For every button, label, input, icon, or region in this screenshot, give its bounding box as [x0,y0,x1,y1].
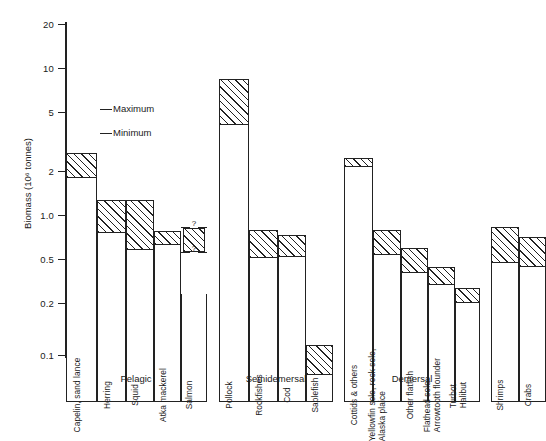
y-tickmark-02 [58,303,66,304]
bar-squid: Squid [126,201,154,402]
bar-label-yellowfin-line2: Alaska plaice [377,391,387,441]
bar-label-yellowfin-line1: Yellowfin sole, rock sole, [367,349,377,441]
bar-label-salmon: Salmon [184,381,194,410]
y-tick-label-01: 0.1 [40,350,54,361]
bar-label-herring: Herring [102,381,112,409]
y-tick-label-5: 5 [49,107,54,118]
y-tickmark-01 [58,355,66,356]
minimum-callout: Minimum [113,127,152,138]
y-axis-title: Biomass (10⁶ tonnes) [22,119,33,249]
maximum-leader-line [100,109,112,110]
bar-label-turbot-line2: Halibut [457,382,467,409]
maximum-callout: Maximum [113,103,154,114]
bar-label-squid: Squid [130,384,140,406]
bar-label-flathead-line1: Flathead sole [422,381,432,432]
y-tick-label-2: 2 [49,166,54,177]
y-tick-label-10: 10 [43,63,54,74]
bar-label-yellowfin-sole-group: Yellowfin sole, rock sole,Alaska plaice [368,349,387,441]
bar-turbot-halibut: TurbotHalibut [455,289,480,402]
bar-atka-mackerel: Atka mackerel [154,232,181,402]
y-tickmark-5 [58,112,66,113]
bar-crabs-max-range [519,237,546,267]
minimum-leader-line [100,133,112,134]
group-caption-pelagic: Pelagic [120,373,151,384]
bar-label-cod: Cod [282,387,292,403]
bar-yellowfin-max-range [373,230,402,255]
salmon-lower-question-mark: ? [192,244,196,253]
y-tickmark-10 [58,68,66,69]
bar-turbot-max-range [455,288,481,303]
bar-label-pollock: Pollock [224,381,234,408]
bar-herring-max-range [97,200,127,233]
y-tick-label-1: 1.0 [40,210,54,221]
bar-label-flathead-line2: Arrowtooth flounder [431,358,441,432]
salmon-lower-bracket-left [181,252,190,253]
y-tick-label-02: 0.2 [40,298,54,309]
bar-other-flatfish-max-range [401,248,429,273]
bar-atka-max-range [154,231,182,245]
bar-cottids-max-range [344,158,374,167]
group-caption-demersal: Demersal [392,373,433,384]
bar-sablefish-max-range [306,345,334,375]
y-tickmark-05 [58,259,66,260]
bar-crabs: Crabs [519,238,546,402]
bar-salmon: Salmon [181,294,207,402]
bar-pollock: Pollock [219,80,249,402]
group-caption-semidemersal: Semidemersal [246,373,307,384]
bar-label-crabs: Crabs [523,384,533,407]
y-tickmark-1 [58,215,66,216]
bar-label-shrimps: Shrimps [495,379,505,410]
bar-label-turbot-halibut: TurbotHalibut [449,382,468,409]
salmon-lower-bracket-right [198,252,207,253]
bar-label-flathead-arrowtooth: Flathead soleArrowtooth flounder [423,358,442,432]
bar-label-capelin: Capelin, sand lance [72,358,82,433]
bar-rockfishes-max-range [249,230,279,258]
salmon-upper-question-mark: ? [192,219,196,228]
y-tickmark-20 [58,24,66,25]
bar-cod-max-range [278,235,307,257]
bar-capelin-max-range [66,153,98,178]
salmon-upper-bracket-left [181,227,190,228]
y-tick-label-05: 0.5 [40,254,54,265]
bar-sablefish: Sablefish [306,346,333,402]
bar-flathead-max-range [428,267,456,285]
bar-herring: Herring [97,201,126,402]
bar-squid-max-range [126,200,155,250]
bar-shrimps-max-range [491,227,520,263]
bar-capelin-sand-lance: Capelin, sand lance [66,154,97,402]
bar-label-sablefish: Sablefish [310,377,320,412]
bar-shrimps: Shrimps [491,228,519,402]
bar-label-turbot-line1: Turbot [448,384,458,408]
salmon-upper-bracket-right [198,227,207,228]
y-tick-label-20: 20 [43,19,54,30]
bar-pollock-max-range [219,79,250,125]
bar-label-cottids-others: Cottids & others [349,365,359,426]
bar-label-atka-mackerel: Atka mackerel [158,368,168,422]
